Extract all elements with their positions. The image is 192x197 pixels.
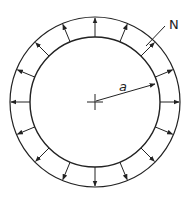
load-arrow-icon [63,24,70,42]
load-arrow-icon [17,70,35,77]
load-arrow-icon [120,24,127,42]
ring-diagram: a N [0,0,192,197]
radius-label: a [119,79,127,94]
load-arrow-icon [17,127,35,134]
load-arrow-icon [63,162,70,180]
load-arrow-icon [36,148,49,161]
load-arrow-icon [155,70,173,77]
load-label: N [169,17,179,32]
load-arrow-icon [141,148,154,161]
load-arrow-icon [120,162,127,180]
center-mark-icon [87,94,103,110]
load-arrow-icon [155,127,173,134]
load-arrow-icon [36,43,49,56]
